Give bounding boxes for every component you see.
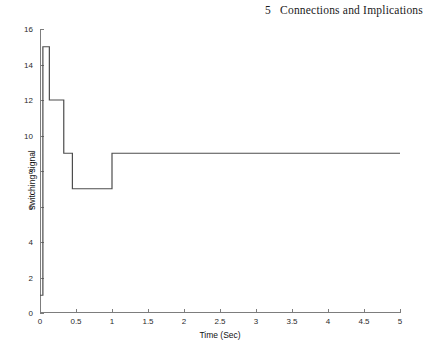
x-tick-mark — [148, 309, 149, 313]
x-tick-mark — [112, 309, 113, 313]
x-tick-mark — [256, 309, 257, 313]
x-tick-label: 1.5 — [142, 317, 153, 326]
x-tick-mark — [76, 309, 77, 313]
y-tick-label: 14 — [0, 60, 33, 69]
y-tick-mark — [40, 313, 44, 314]
y-tick-mark — [40, 136, 44, 137]
x-axis-label: Time (Sec) — [199, 330, 240, 340]
y-tick-label: 0 — [0, 309, 33, 318]
x-tick-label: 2 — [182, 317, 186, 326]
x-tick-mark — [364, 309, 365, 313]
running-head: 5 Connections and Implications — [0, 0, 429, 20]
y-tick-mark — [40, 100, 44, 101]
y-tick-mark — [40, 29, 44, 30]
chapter-number: 5 — [265, 4, 271, 16]
x-tick-label: 3 — [254, 317, 258, 326]
x-tick-label: 4 — [326, 317, 330, 326]
x-tick-label: 2.5 — [214, 317, 225, 326]
x-tick-mark — [40, 309, 41, 313]
chapter-title: Connections and Implications — [280, 4, 423, 16]
y-axis-label: switching signal — [27, 150, 37, 210]
y-tick-mark — [40, 207, 44, 208]
x-tick-label: 4.5 — [358, 317, 369, 326]
y-tick-label: 2 — [0, 273, 33, 282]
y-tick-mark — [40, 65, 44, 66]
x-tick-mark — [292, 309, 293, 313]
x-tick-mark — [184, 309, 185, 313]
y-tick-mark — [40, 278, 44, 279]
x-tick-mark — [328, 309, 329, 313]
x-tick-label: 5 — [398, 317, 402, 326]
x-tick-label: 3.5 — [286, 317, 297, 326]
x-tick-mark — [220, 309, 221, 313]
x-tick-label: 0 — [38, 317, 42, 326]
y-tick-label: 12 — [0, 96, 33, 105]
x-tick-label: 1 — [110, 317, 114, 326]
x-tick-mark — [400, 309, 401, 313]
plot-axes-box — [40, 29, 400, 313]
y-tick-label: 16 — [0, 25, 33, 34]
y-tick-label: 4 — [0, 238, 33, 247]
switching-signal-figure: 0246810121416 00.511.522.533.544.55 swit… — [0, 20, 429, 350]
y-tick-mark — [40, 171, 44, 172]
y-tick-mark — [40, 242, 44, 243]
x-tick-label: 0.5 — [70, 317, 81, 326]
y-tick-label: 10 — [0, 131, 33, 140]
